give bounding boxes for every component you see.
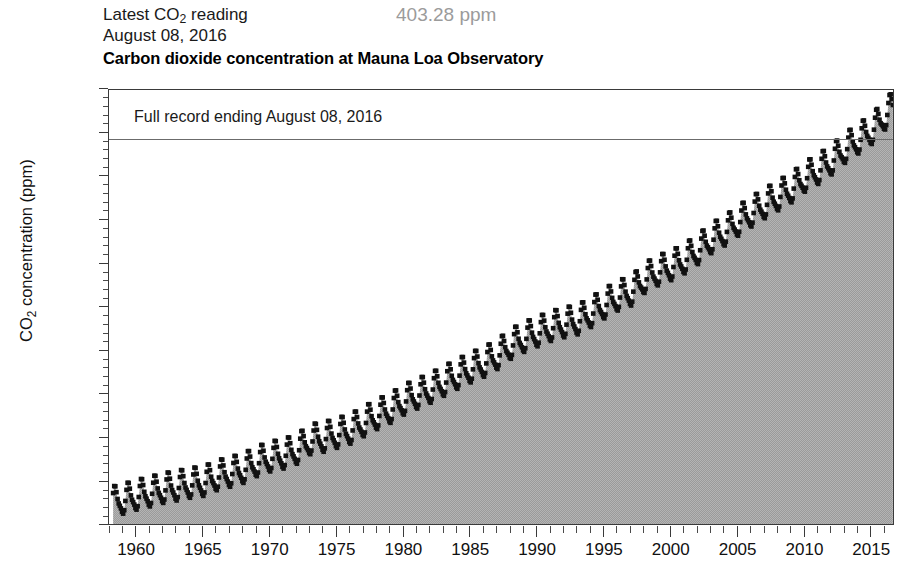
data-point: [389, 417, 394, 422]
data-point: [769, 189, 774, 194]
x-axis-minor-tick: [523, 526, 524, 533]
data-point: [755, 192, 760, 197]
data-point: [162, 497, 167, 502]
x-axis-tick-label: 2005: [703, 540, 773, 560]
data-point: [168, 476, 173, 481]
x-axis-minor-tick: [149, 526, 150, 533]
x-axis-minor-tick: [282, 526, 283, 533]
data-point: [248, 454, 253, 459]
data-point: [688, 238, 693, 243]
x-axis-minor-tick: [576, 526, 577, 533]
data-point: [289, 448, 294, 453]
x-axis-minor-tick: [817, 526, 818, 533]
data-point: [309, 448, 314, 453]
data-point: [409, 393, 414, 398]
data-point: [287, 435, 292, 440]
data-point: [597, 304, 602, 309]
data-point: [698, 248, 703, 253]
data-point: [765, 203, 770, 208]
data-point: [456, 383, 461, 388]
data-point: [202, 490, 207, 495]
chart-title: Carbon dioxide concentration at Mauna Lo…: [103, 48, 543, 68]
x-axis-major-tick: [737, 526, 738, 537]
data-point: [643, 287, 648, 292]
x-axis-minor-tick: [349, 526, 350, 533]
data-point: [845, 147, 850, 152]
data-point: [122, 508, 127, 513]
data-point: [510, 353, 515, 358]
data-point: [229, 481, 234, 486]
data-point: [702, 233, 707, 238]
data-point: [324, 437, 329, 442]
data-point: [136, 495, 141, 500]
x-axis-minor-tick: [322, 526, 323, 533]
data-point: [261, 448, 266, 453]
data-point: [203, 481, 208, 486]
data-point: [403, 409, 408, 414]
data-point: [182, 481, 187, 486]
x-axis-minor-tick: [242, 526, 243, 533]
data-point: [169, 483, 174, 488]
data-point: [537, 331, 542, 336]
data-point: [674, 246, 679, 251]
data-point: [113, 484, 118, 489]
data-point: [242, 477, 247, 482]
data-point: [368, 407, 373, 412]
y-axis-major-tick: [99, 263, 108, 264]
data-point: [524, 337, 529, 342]
data-point: [594, 292, 599, 297]
data-point: [523, 346, 528, 351]
data-point: [457, 373, 462, 378]
data-point: [350, 428, 355, 433]
data-point: [153, 474, 158, 479]
data-point: [581, 300, 586, 305]
data-point: [709, 251, 714, 256]
x-axis-minor-tick: [590, 526, 591, 533]
data-point: [836, 143, 841, 148]
data-point: [808, 157, 813, 162]
data-point: [729, 215, 734, 220]
data-point: [737, 229, 742, 234]
data-point: [301, 434, 306, 439]
x-axis-minor-tick: [376, 526, 377, 533]
data-point: [591, 311, 596, 316]
x-axis-minor-tick: [496, 526, 497, 533]
data-point: [830, 168, 835, 173]
x-axis-major-tick: [804, 526, 805, 537]
latest-reading-date: August 08, 2016: [103, 25, 227, 46]
data-point: [114, 490, 119, 495]
data-point: [715, 219, 720, 224]
data-point: [190, 483, 195, 488]
data-point: [796, 172, 801, 177]
data-point: [395, 393, 400, 398]
data-point: [221, 463, 226, 468]
x-axis-minor-tick: [630, 526, 631, 533]
data-point: [404, 399, 409, 404]
data-point: [421, 375, 426, 380]
data-point: [555, 314, 560, 319]
data-point: [149, 501, 154, 506]
data-point: [662, 257, 667, 262]
data-point: [590, 321, 595, 326]
data-point: [630, 299, 635, 304]
x-axis-minor-tick: [162, 526, 163, 533]
data-point: [677, 258, 682, 263]
data-point: [448, 367, 453, 372]
x-axis-major-tick: [403, 526, 404, 537]
y-axis-major-tick: [99, 132, 108, 133]
x-axis-major-tick: [670, 526, 671, 537]
co2-area-fill: [113, 94, 893, 525]
x-axis-tick-label: 1985: [435, 540, 505, 560]
data-point: [756, 197, 761, 202]
y-axis-major-tick: [99, 437, 108, 438]
data-point: [243, 468, 248, 473]
data-point: [247, 449, 252, 454]
data-point: [189, 492, 194, 497]
data-point: [631, 289, 636, 294]
data-point: [809, 162, 814, 167]
data-point: [604, 303, 609, 308]
x-axis-major-tick: [870, 526, 871, 537]
data-point: [790, 196, 795, 201]
data-point: [550, 335, 555, 340]
y-axis-major-tick: [99, 393, 108, 394]
